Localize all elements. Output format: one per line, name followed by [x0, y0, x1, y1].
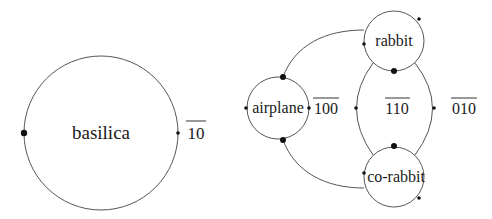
- arc-lens-left: [357, 63, 374, 155]
- dot: [417, 17, 421, 21]
- dot: [354, 106, 358, 110]
- dot: [417, 196, 421, 200]
- rabbit-label: rabbit: [375, 32, 413, 49]
- co-rabbit-label: co-rabbit: [367, 168, 425, 185]
- dot: [362, 171, 366, 175]
- dot: [244, 106, 248, 110]
- edge-label-110: 110: [385, 100, 408, 117]
- dot: [432, 106, 436, 110]
- dot: [280, 137, 286, 143]
- dot: [362, 42, 366, 46]
- arc-airplane-rabbit: [283, 30, 364, 77]
- basilica-diagram: basilica 10: [21, 56, 206, 210]
- airplane-rabbit-diagram: airplane rabbit co-rabbit 100 110 010: [244, 11, 477, 207]
- dot: [176, 131, 180, 135]
- edge-label-010: 010: [452, 100, 476, 117]
- dot: [21, 130, 27, 136]
- dot: [391, 68, 397, 74]
- dot: [391, 143, 397, 149]
- edge-label-10: 10: [188, 124, 205, 143]
- dot: [280, 74, 286, 80]
- arc-airplane-corabbit: [283, 140, 364, 188]
- diagram-canvas: basilica 10 airplane rabbit co-rabbit 10…: [0, 0, 492, 219]
- dot: [307, 106, 311, 110]
- airplane-label: airplane: [252, 99, 304, 117]
- basilica-label: basilica: [72, 122, 131, 143]
- edge-label-100: 100: [314, 100, 338, 117]
- arc-lens-right: [415, 63, 433, 155]
